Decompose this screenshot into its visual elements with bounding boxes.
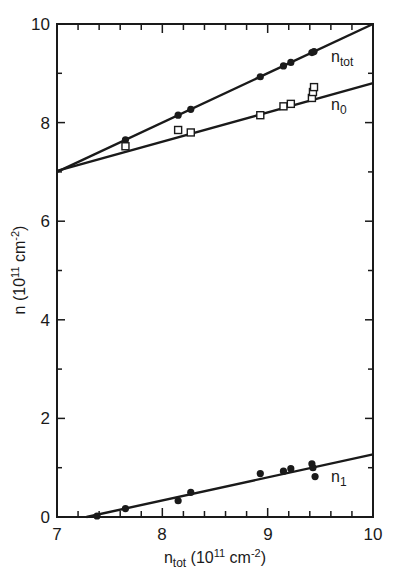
series-label-n1: n1: [331, 468, 347, 489]
data-point-square: [175, 126, 182, 133]
y-tick-label: 6: [41, 212, 50, 231]
data-point-circle: [187, 106, 194, 113]
plot-svg: 7 8 9 10 0 2 4 6 8 10 ntot (1011 cm-2) n…: [0, 0, 397, 572]
data-point-square: [311, 84, 318, 91]
data-point-circle: [311, 473, 318, 480]
y-tick-label: 2: [41, 409, 50, 428]
data-point-square: [187, 129, 194, 136]
data-point-circle: [175, 112, 182, 119]
x-axis-title: ntot (1011 cm-2): [164, 547, 266, 570]
data-point-circle: [280, 62, 287, 69]
data-point-circle: [309, 464, 316, 471]
data-point-square: [287, 100, 294, 107]
fit-line-ntot: [57, 24, 373, 172]
series-label-ntot: ntot: [331, 48, 354, 69]
data-point-circle: [310, 48, 317, 55]
y-axis-title: n (1011 cm-2): [9, 226, 28, 315]
data-point-circle: [280, 468, 287, 475]
x-tick-label: 8: [157, 525, 166, 544]
chart-figure: 7 8 9 10 0 2 4 6 8 10 ntot (1011 cm-2) n…: [0, 0, 397, 572]
series-label-n0: n0: [331, 96, 347, 117]
x-tick-label: 7: [52, 525, 61, 544]
data-point-circle: [122, 505, 129, 512]
data-markers: [93, 48, 318, 520]
data-point-circle: [93, 512, 100, 519]
x-tick-label: 9: [263, 525, 272, 544]
x-tick-labels: 7 8 9 10: [52, 525, 382, 544]
data-point-square: [122, 143, 129, 150]
y-tick-label: 10: [31, 15, 50, 34]
x-tick-label: 10: [364, 525, 383, 544]
y-tick-label: 0: [41, 508, 50, 527]
data-point-circle: [287, 59, 294, 66]
data-point-circle: [187, 489, 194, 496]
y-tick-label: 4: [41, 311, 50, 330]
data-point-circle: [175, 497, 182, 504]
data-point-circle: [257, 470, 264, 477]
fit-lines: [57, 24, 373, 517]
y-tick-label: 8: [41, 114, 50, 133]
y-tick-labels: 0 2 4 6 8 10: [31, 15, 50, 527]
data-point-circle: [287, 465, 294, 472]
fit-line-n0: [57, 83, 373, 171]
data-point-square: [257, 112, 264, 119]
fit-line-n1: [86, 454, 373, 517]
data-point-square: [280, 103, 287, 110]
data-point-circle: [257, 73, 264, 80]
